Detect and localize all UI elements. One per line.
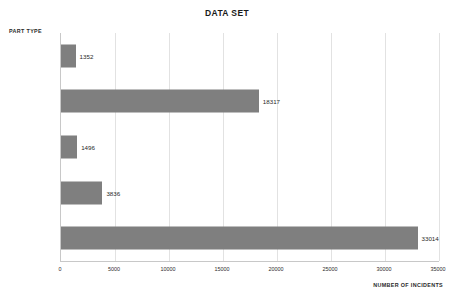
bar-value-label: 18317 — [263, 98, 280, 105]
bar[interactable] — [61, 181, 102, 204]
bar-value-label: 3836 — [106, 189, 120, 196]
x-tick-label: 25000 — [323, 266, 338, 272]
x-tick-label: 30000 — [377, 266, 392, 272]
y-axis-title: PART TYPE — [9, 28, 42, 34]
bar[interactable] — [61, 44, 76, 67]
x-tick-label: 15000 — [215, 266, 230, 272]
chart-title: DATA SET — [0, 8, 454, 18]
bar-row: Pipe (WM)3836 — [61, 170, 438, 216]
bar[interactable] — [61, 227, 418, 250]
bar-value-label: 33014 — [422, 235, 439, 242]
plot-area: Misc1352Component18317Fitting1496Pipe (W… — [60, 33, 438, 261]
bar-row: Pipe (HC)33014 — [61, 215, 438, 261]
bar-value-label: 1352 — [80, 52, 94, 59]
bar[interactable] — [61, 90, 259, 113]
x-tick-label: 10000 — [161, 266, 176, 272]
bar[interactable] — [61, 135, 77, 158]
bar-row: Fitting1496 — [61, 124, 438, 170]
x-tick-label: 35000 — [431, 266, 446, 272]
bar-row: Misc1352 — [61, 33, 438, 79]
bar-chart: DATA SET PART TYPE Misc1352Component1831… — [0, 0, 454, 302]
gridline — [439, 33, 440, 261]
x-axis-title: NUMBER OF INCIDENTS — [0, 282, 443, 288]
x-axis-line — [60, 261, 439, 262]
bar-row: Component18317 — [61, 79, 438, 125]
x-tick-label: 5000 — [108, 266, 120, 272]
x-tick-label: 20000 — [269, 266, 284, 272]
bar-value-label: 1496 — [81, 143, 95, 150]
x-tick-label: 0 — [59, 266, 62, 272]
